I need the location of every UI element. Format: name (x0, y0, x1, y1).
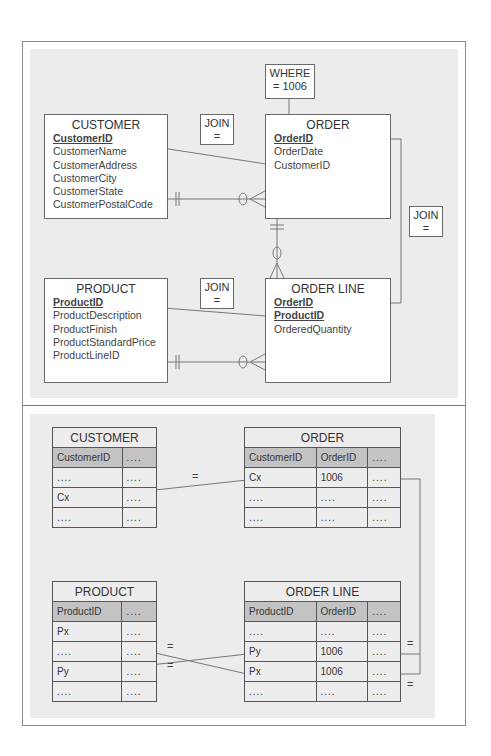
attribute-customer-id: CustomerID (266, 159, 390, 172)
where-note: WHERE = 1006 (265, 64, 315, 99)
table-title: PRODUCT (53, 582, 157, 602)
column-header: OrderID (316, 448, 368, 468)
cell: .... (368, 662, 401, 682)
table-order: ORDER CustomerID OrderID .... Cx1006....… (244, 427, 401, 528)
header-row: CustomerID OrderID .... (245, 448, 401, 468)
column-header: .... (368, 602, 401, 622)
attribute-customer-city: CustomerCity (45, 172, 167, 185)
attribute-product-id: ProductID (45, 296, 167, 309)
cell: .... (368, 508, 401, 528)
cell: .... (245, 622, 317, 642)
table-row: ........ (53, 642, 157, 662)
cell: Py (53, 662, 122, 682)
table-title: ORDER LINE (245, 582, 401, 602)
cell: Py (245, 642, 317, 662)
column-header: ProductID (245, 602, 317, 622)
entity-title: CUSTOMER (45, 118, 167, 132)
table-row: ........ (53, 508, 157, 528)
where-value: = 1006 (266, 80, 314, 93)
equals-product-px: = (167, 640, 173, 652)
join-equals: = (201, 130, 233, 143)
cell: .... (368, 622, 401, 642)
entity-order: ORDER OrderID OrderDate CustomerID (265, 114, 391, 219)
equals-product-py: = (167, 659, 173, 671)
cell: .... (316, 682, 368, 702)
cell: .... (122, 488, 156, 508)
cell: Cx (53, 488, 123, 508)
cell: .... (53, 468, 123, 488)
column-header: CustomerID (53, 448, 123, 468)
header-row: ProductID .... (53, 602, 157, 622)
table-row: ............ (245, 622, 401, 642)
table-row: ............ (245, 682, 401, 702)
cell: 1006 (316, 642, 368, 662)
cell: Cx (245, 468, 317, 488)
header-row: CustomerID .... (53, 448, 157, 468)
join-equals: = (201, 294, 233, 307)
attribute-product-finish: ProductFinish (45, 323, 167, 336)
table-row: ........ (53, 682, 157, 702)
entity-customer: CUSTOMER CustomerID CustomerName Custome… (44, 114, 168, 219)
entity-title: ORDER (266, 118, 390, 132)
join-note-product-orderline: JOIN = (200, 278, 234, 309)
attribute-ordered-quantity: OrderedQuantity (266, 323, 390, 336)
cell: 1006 (316, 662, 368, 682)
entity-order-line: ORDER LINE OrderID ProductID OrderedQuan… (265, 278, 391, 383)
column-header: OrderID (316, 602, 368, 622)
column-header: ProductID (53, 602, 122, 622)
cell: .... (122, 682, 157, 702)
table-customer: CUSTOMER CustomerID .... ........ Cx....… (52, 427, 157, 528)
cell: .... (316, 508, 368, 528)
join-equals: = (410, 222, 442, 235)
equals-order-orderline-1: = (407, 637, 413, 649)
join-label: JOIN (201, 117, 233, 130)
attribute-product-line-id: ProductLineID (45, 349, 167, 362)
attribute-product-standard-price: ProductStandardPrice (45, 336, 167, 349)
cell: .... (316, 622, 368, 642)
cell: Px (245, 662, 317, 682)
cell: .... (316, 488, 368, 508)
table-row: Py1006.... (245, 642, 401, 662)
entity-title: ORDER LINE (266, 282, 390, 296)
attribute-customer-name: CustomerName (45, 145, 167, 158)
table-row: ............ (245, 508, 401, 528)
table-row: Cx.... (53, 488, 157, 508)
attribute-product-description: ProductDescription (45, 309, 167, 322)
cell: .... (53, 642, 122, 662)
cell: .... (122, 642, 157, 662)
attribute-order-id: OrderID (266, 132, 390, 145)
cell: .... (368, 468, 401, 488)
table-row: Cx1006.... (245, 468, 401, 488)
attribute-order-id: OrderID (266, 296, 390, 309)
header-row: ProductID OrderID .... (245, 602, 401, 622)
entity-title: PRODUCT (45, 282, 167, 296)
equals-order-orderline-2: = (407, 678, 413, 690)
cell: .... (245, 682, 317, 702)
cell: .... (245, 488, 317, 508)
cell: .... (368, 642, 401, 662)
attribute-customer-address: CustomerAddress (45, 159, 167, 172)
table-row: ............ (245, 488, 401, 508)
cell: .... (368, 488, 401, 508)
join-label: JOIN (201, 281, 233, 294)
cell: .... (122, 508, 156, 528)
cell: .... (53, 508, 123, 528)
cell: Px (53, 622, 122, 642)
attribute-customer-postal-code: CustomerPostalCode (45, 198, 167, 211)
cell: .... (122, 468, 156, 488)
attribute-customer-id: CustomerID (45, 132, 167, 145)
table-title: ORDER (245, 428, 401, 448)
column-header: .... (122, 448, 156, 468)
table-row: Px1006.... (245, 662, 401, 682)
table-product: PRODUCT ProductID .... Px.... ........ P… (52, 581, 157, 702)
column-header: .... (122, 602, 157, 622)
column-header: .... (368, 448, 401, 468)
entity-product: PRODUCT ProductID ProductDescription Pro… (44, 278, 168, 383)
attribute-order-date: OrderDate (266, 145, 390, 158)
column-header: CustomerID (245, 448, 317, 468)
cell: .... (53, 682, 122, 702)
table-order-line: ORDER LINE ProductID OrderID .... ......… (244, 581, 401, 702)
table-row: Px.... (53, 622, 157, 642)
attribute-product-id: ProductID (266, 309, 390, 322)
join-label: JOIN (410, 209, 442, 222)
